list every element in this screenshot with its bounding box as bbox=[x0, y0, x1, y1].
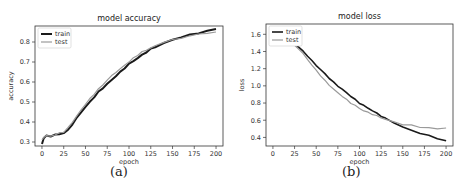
y-tick-label: 0.6 bbox=[20, 78, 30, 86]
legend-label-test: test bbox=[286, 36, 299, 44]
x-tick-label: 150 bbox=[166, 150, 178, 158]
x-tick-label: 175 bbox=[188, 150, 200, 158]
y-tick-label: 0.4 bbox=[251, 134, 261, 142]
y-tick-label: 1.2 bbox=[251, 65, 261, 73]
x-tick-label: 25 bbox=[290, 150, 298, 158]
legend: traintest bbox=[269, 26, 302, 46]
y-tick-label: 0.7 bbox=[20, 58, 30, 66]
x-tick-label: 50 bbox=[81, 150, 89, 158]
loss-panel: model loss02550751001251501752000.40.60.… bbox=[234, 0, 468, 189]
legend-label-test: test bbox=[55, 38, 68, 46]
series-train-line bbox=[273, 34, 446, 141]
accuracy-chart: model accuracy02550751001251501752000.30… bbox=[0, 0, 234, 189]
x-tick-label: 75 bbox=[103, 150, 111, 158]
y-tick-label: 1.4 bbox=[251, 48, 261, 56]
y-tick-label: 0.3 bbox=[20, 138, 30, 146]
y-axis-label: accuracy bbox=[7, 71, 15, 100]
legend-label-train: train bbox=[55, 30, 70, 38]
y-axis-label: loss bbox=[238, 78, 246, 91]
accuracy-panel: model accuracy02550751001251501752000.30… bbox=[0, 0, 234, 189]
x-tick-label: 0 bbox=[40, 150, 44, 158]
chart-title: model accuracy bbox=[97, 14, 161, 23]
x-tick-label: 25 bbox=[60, 150, 68, 158]
x-tick-label: 125 bbox=[375, 150, 387, 158]
y-tick-label: 0.6 bbox=[251, 117, 261, 125]
y-tick-label: 0.5 bbox=[20, 98, 30, 106]
caption-b: (b) bbox=[342, 164, 360, 179]
x-tick-label: 0 bbox=[271, 150, 275, 158]
chart-title: model loss bbox=[338, 12, 381, 21]
x-tick-label: 175 bbox=[418, 150, 430, 158]
legend: traintest bbox=[38, 28, 71, 48]
x-tick-label: 200 bbox=[440, 150, 452, 158]
y-tick-label: 0.8 bbox=[251, 99, 261, 107]
x-tick-label: 75 bbox=[334, 150, 342, 158]
y-tick-label: 0.4 bbox=[20, 118, 30, 126]
loss-chart: model loss02550751001251501752000.40.60.… bbox=[234, 0, 468, 189]
y-tick-label: 1.6 bbox=[251, 31, 261, 39]
x-tick-label: 150 bbox=[397, 150, 409, 158]
x-tick-label: 100 bbox=[353, 150, 365, 158]
y-tick-label: 0.8 bbox=[20, 38, 30, 46]
x-tick-label: 125 bbox=[145, 150, 157, 158]
series-test-line bbox=[273, 36, 446, 129]
x-tick-label: 100 bbox=[123, 150, 135, 158]
x-tick-label: 50 bbox=[312, 150, 320, 158]
caption-a: (a) bbox=[110, 164, 128, 179]
y-tick-label: 1.0 bbox=[251, 82, 261, 90]
legend-label-train: train bbox=[286, 28, 301, 36]
x-tick-label: 200 bbox=[210, 150, 222, 158]
